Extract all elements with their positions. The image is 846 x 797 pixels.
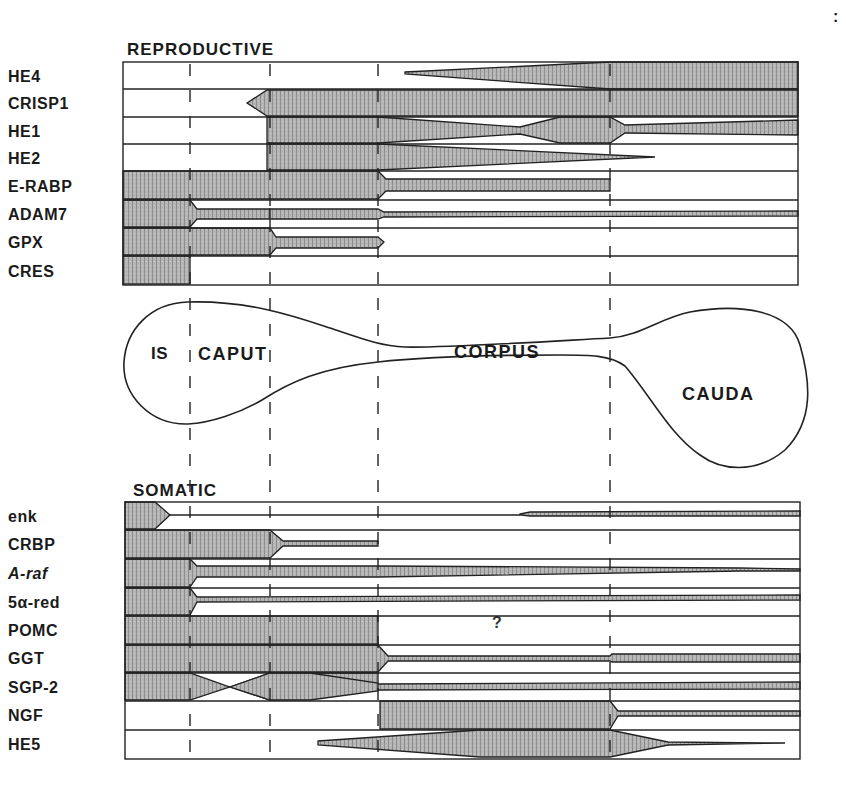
bar-a-raf xyxy=(125,559,800,587)
bar-adam7 xyxy=(123,200,270,227)
gene-label-he1: HE1 xyxy=(8,123,41,140)
reproductive-section-title: REPRODUCTIVE xyxy=(127,40,274,59)
gene-label-enk: enk xyxy=(8,508,37,525)
bar-he2 xyxy=(267,144,655,170)
gene-label-ngf: NGF xyxy=(8,707,43,724)
somatic-labels: enk CRBP A-raf 5α-red POMC GGT SGP-2 NGF… xyxy=(7,508,60,753)
gene-label-ggt: GGT xyxy=(8,650,44,667)
bar-pomc xyxy=(125,616,378,644)
bar-enk xyxy=(125,502,170,529)
gene-label-gpx: GPX xyxy=(8,234,43,251)
gene-label-pomc: POMC xyxy=(8,622,58,639)
bar-crbp xyxy=(125,530,378,558)
gene-label-cres: CRES xyxy=(8,263,54,280)
gene-label-he2: HE2 xyxy=(8,150,41,167)
reproductive-labels: HE4 CRISP1 HE1 HE2 E-RABP ADAM7 GPX CRES xyxy=(8,68,72,280)
somatic-bars xyxy=(125,502,800,757)
gene-label-e-rabp: E-RABP xyxy=(8,178,72,195)
gene-label-crisp1: CRISP1 xyxy=(8,95,69,112)
region-label-caput: CAPUT xyxy=(198,344,268,364)
bar-he4 xyxy=(405,62,798,89)
region-label-is: IS xyxy=(151,344,168,363)
bar-adam7-tail xyxy=(270,209,798,219)
bar-ggt xyxy=(125,645,800,672)
bar-gpx xyxy=(123,228,384,255)
gene-label-he4: HE4 xyxy=(8,68,41,85)
gene-label-5a-red: 5α-red xyxy=(8,594,60,611)
bar-ngf xyxy=(380,701,800,729)
bar-crisp1 xyxy=(247,90,798,116)
region-label-cauda: CAUDA xyxy=(682,384,755,404)
gene-label-sgp-2: SGP-2 xyxy=(8,679,59,696)
epididymis-gene-expression-diagram: : REPRODUCTIVE HE4 CRISP1 HE1 HE2 E-RABP… xyxy=(0,0,846,797)
reproductive-bars xyxy=(123,62,798,284)
bar-e-rabp xyxy=(123,171,610,199)
region-label-corpus: CORPUS xyxy=(454,342,540,362)
bar-he1 xyxy=(267,117,798,143)
bar-cres xyxy=(123,256,190,284)
gene-label-adam7: ADAM7 xyxy=(8,206,67,223)
gene-label-crbp: CRBP xyxy=(8,536,55,553)
gene-label-a-raf: A-raf xyxy=(7,565,49,582)
corner-mark: : xyxy=(833,8,839,25)
bar-enk-tail xyxy=(520,511,800,516)
bar-sgp-2 xyxy=(125,673,800,700)
gene-label-he5: HE5 xyxy=(8,736,41,753)
bar-he5 xyxy=(318,730,785,757)
somatic-section-title: SOMATIC xyxy=(133,481,217,500)
bar-5a-red xyxy=(125,588,800,615)
